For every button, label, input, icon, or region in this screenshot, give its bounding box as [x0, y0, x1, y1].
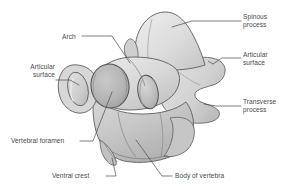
vertebra-bone-group — [58, 12, 225, 165]
label-body-of-vertebra: Body of vertebra — [175, 172, 224, 180]
label-vertebral-foramen-line1: Vertebral foramen — [11, 137, 64, 144]
label-articular-surface-right: Articular surface — [243, 51, 268, 67]
label-transverse-process-line2: process — [243, 106, 276, 114]
label-articular-surface-left-line1: Articular — [30, 63, 55, 70]
label-arch-line1: Arch — [62, 33, 76, 40]
label-ventral-crest: Ventral crest — [52, 172, 89, 180]
label-spinous-process-line1: Spinous — [243, 13, 267, 20]
label-articular-surface-right-line1: Articular — [243, 51, 268, 58]
label-ventral-crest-line1: Ventral crest — [52, 172, 89, 179]
label-arch: Arch — [62, 33, 76, 41]
label-vertebral-foramen: Vertebral foramen — [11, 137, 64, 145]
label-transverse-process: Transverse process — [243, 98, 276, 114]
label-articular-surface-left-line2: surface — [7, 71, 55, 79]
label-articular-surface-right-line2: surface — [243, 59, 268, 67]
label-articular-surface-left: Articular surface — [7, 63, 55, 79]
anatomical-figure: Spinous process Articular surface Transv… — [0, 0, 290, 194]
label-body-of-vertebra-line1: Body of vertebra — [175, 172, 224, 179]
label-spinous-process: Spinous process — [243, 13, 267, 29]
label-transverse-process-line1: Transverse — [243, 98, 276, 105]
label-spinous-process-line2: process — [243, 21, 267, 29]
